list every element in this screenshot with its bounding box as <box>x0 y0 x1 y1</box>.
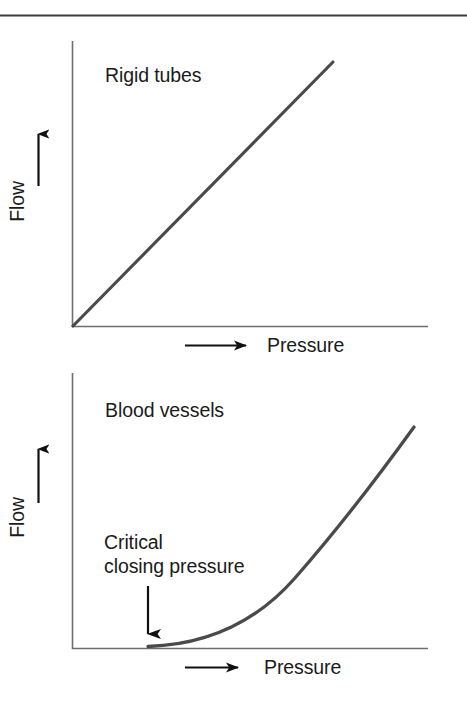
rigid-tubes-x-axis-label: Pressure <box>267 335 344 357</box>
critical-closing-pressure-label-line2: closing pressure <box>104 556 244 578</box>
critical-closing-pressure-label-line1: Critical <box>104 532 163 554</box>
rigid-tubes-y-axis-label: Flow <box>7 181 29 222</box>
blood-vessels-panel-title: Blood vessels <box>105 400 224 422</box>
blood-vessels-y-axis-label: Flow <box>7 497 29 538</box>
blood-vessels-data-curve <box>148 427 414 647</box>
figure-root: Rigid tubes Flow Pressure Blood vessels … <box>0 0 467 706</box>
panel-blood-vessels <box>39 373 429 668</box>
blood-vessels-x-axis-label: Pressure <box>264 657 341 679</box>
panel-rigid-tubes <box>39 41 429 346</box>
rigid-tubes-data-line <box>73 62 333 326</box>
rigid-tubes-panel-title: Rigid tubes <box>105 65 201 87</box>
figure-canvas <box>0 0 467 706</box>
